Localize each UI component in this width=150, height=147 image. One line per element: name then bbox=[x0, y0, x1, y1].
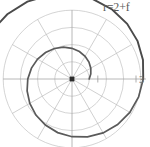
origin-marker bbox=[70, 77, 75, 82]
radial-tick-label-3: 3 bbox=[139, 74, 144, 85]
polar-plot-canvas bbox=[0, 0, 150, 147]
polar-axes bbox=[3, 10, 146, 147]
polar-plot-screenshot: r=2+f 3 bbox=[0, 0, 150, 147]
spiral-inner-loop bbox=[27, 47, 143, 137]
plot-title: r=2+f bbox=[103, 1, 130, 14]
